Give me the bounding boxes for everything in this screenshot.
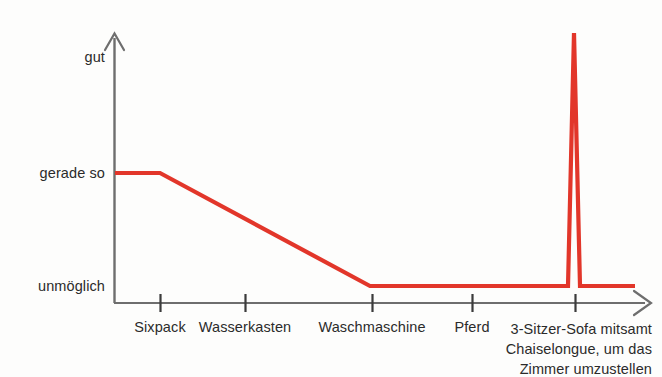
x-axis (114, 291, 651, 315)
y-tick-label-gerade-so: gerade so (0, 165, 105, 181)
y-axis (105, 34, 124, 304)
x-tick-label-sofa-line-1: 3-Sitzer-Sofa mitsamt (424, 319, 652, 339)
x-tick-label-sixpack: Sixpack (134, 319, 185, 335)
y-tick-label-gut: gut (10, 49, 105, 65)
x-tick-label-sofa-line-3: Zimmer umzustellen (424, 359, 652, 377)
x-tick-label-waschmaschine: Waschmaschine (318, 319, 425, 335)
x-tick-label-sofa-line-2: Chaiselongue, um das (424, 339, 652, 359)
y-tick-label-unmoeglich: unmöglich (0, 278, 105, 294)
x-tick-label-wasserkasten: Wasserkasten (199, 319, 292, 335)
chart-figure: gut gerade so unmöglich Sixpack Wasserka… (0, 0, 662, 377)
data-series-line (115, 33, 635, 286)
x-tick-label-sofa: 3-Sitzer-Sofa mitsamt Chaiselongue, um d… (424, 319, 652, 377)
